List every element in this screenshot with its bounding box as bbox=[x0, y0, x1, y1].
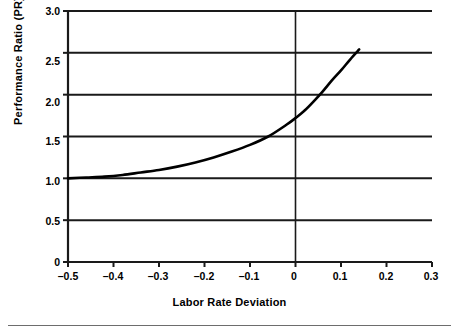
x-tick-label: 0.1 bbox=[333, 271, 348, 282]
footer-divider bbox=[8, 325, 451, 326]
x-tick-label: –0.3 bbox=[148, 271, 168, 282]
gridlines-group bbox=[68, 11, 432, 220]
x-tick-label: –0.1 bbox=[239, 271, 259, 282]
x-tick-label: –0.2 bbox=[194, 271, 214, 282]
x-axis-title: Labor Rate Deviation bbox=[0, 296, 459, 308]
y-tick-label: 1.5 bbox=[34, 136, 60, 147]
x-tick-label: –0.4 bbox=[103, 271, 123, 282]
y-tick-label: 0.5 bbox=[34, 216, 60, 227]
y-tick-label: 2.5 bbox=[34, 56, 60, 67]
y-tick-label: 3.0 bbox=[34, 6, 60, 17]
y-axis-title: Performance Ratio (PR) bbox=[12, 0, 24, 141]
performance-ratio-curve bbox=[68, 49, 359, 178]
y-tick-label: 2.0 bbox=[34, 97, 60, 108]
y-tick-label: 1.0 bbox=[34, 176, 60, 187]
x-tick-label: 0 bbox=[291, 271, 297, 282]
y-tick-label: 0 bbox=[34, 257, 60, 268]
x-tick-label: 0.2 bbox=[379, 271, 394, 282]
chart-figure: 3.0 2.5 2.0 1.5 1.0 0.5 0 –0.5 –0.4 –0.3… bbox=[0, 0, 459, 331]
x-tick-label: –0.5 bbox=[58, 271, 78, 282]
x-tick-label: 0.3 bbox=[424, 271, 439, 282]
